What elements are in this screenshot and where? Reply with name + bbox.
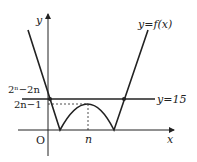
origin-label: O <box>36 134 45 147</box>
y-tick-lower: 2n−1 <box>14 99 42 110</box>
curve-label: y=f(x) <box>137 18 172 31</box>
y-axis-label: y <box>35 14 43 27</box>
y-tick-upper: 2ⁿ−2n <box>8 84 40 95</box>
intersection-point-right <box>122 97 126 101</box>
x-tick-n: n <box>85 133 92 146</box>
x-axis-label: x <box>167 133 174 146</box>
line-label: y=15 <box>156 93 186 106</box>
curve-f <box>28 30 148 130</box>
intersection-point-left <box>48 97 52 101</box>
function-graph: y x O y=f(x) y=15 2ⁿ−2n 2n−1 n <box>0 0 197 162</box>
